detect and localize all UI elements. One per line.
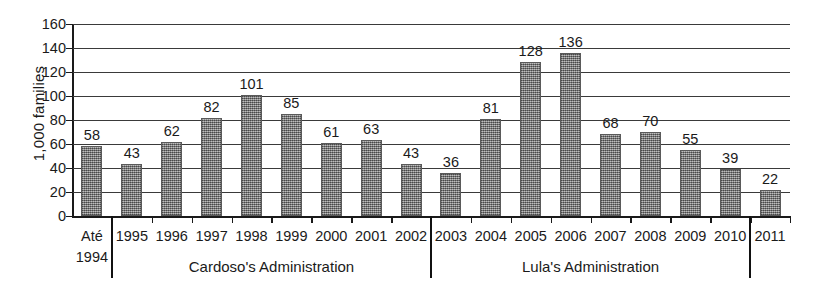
bar-2006[interactable]: [560, 53, 581, 216]
x-tick-15: [710, 216, 711, 223]
bar-2008[interactable]: [640, 132, 661, 216]
separator-after-2002: [430, 216, 433, 278]
x-label-2006: 2006: [554, 226, 586, 247]
bar-1996[interactable]: [161, 142, 182, 216]
y-tick-label-160: 160: [32, 16, 66, 32]
bar-value-label-1995: 43: [124, 145, 140, 161]
x-label-1995: 1995: [116, 226, 148, 247]
x-label-1996: 1996: [156, 226, 188, 247]
bar-1995[interactable]: [121, 164, 142, 216]
y-tick-label-100: 100: [32, 88, 66, 104]
bar-value-label-2005: 128: [519, 43, 543, 59]
y-axis-tick-labels: 020406080100120140160: [28, 0, 66, 283]
x-tick-1: [152, 216, 153, 223]
x-tick-9: [471, 216, 472, 223]
x-label-2010: 2010: [714, 226, 746, 247]
y-tick-0: [66, 216, 73, 217]
bar-value-label-2010: 39: [722, 150, 738, 166]
gridline-120: [72, 72, 790, 73]
x-label-1997: 1997: [195, 226, 227, 247]
bar-2003[interactable]: [440, 173, 461, 216]
x-label-2001: 2001: [355, 226, 387, 247]
bar-2010[interactable]: [720, 169, 741, 216]
x-tick-7: [391, 216, 392, 223]
x-tick-2: [192, 216, 193, 223]
x-tick-6: [351, 216, 352, 223]
bar-value-label-1996: 62: [164, 123, 180, 139]
x-tick-4: [271, 216, 272, 223]
bar-value-label-2011: 22: [762, 171, 778, 187]
y-tick-140: [66, 48, 73, 49]
bar-value-label-2009: 55: [682, 131, 698, 147]
bar-value-label-2002: 43: [403, 145, 419, 161]
x-label-2003: 2003: [435, 226, 467, 247]
y-tick-label-40: 40: [32, 160, 66, 176]
bar-value-label-1999: 85: [283, 95, 299, 111]
x-tick-11: [551, 216, 552, 223]
x-label-2004: 2004: [475, 226, 507, 247]
gridline-140: [72, 48, 790, 49]
y-tick-label-0: 0: [32, 208, 66, 224]
bar-value-label-até-1994: 58: [84, 127, 100, 143]
x-tick-5: [311, 216, 312, 223]
y-tick-label-140: 140: [32, 40, 66, 56]
y-tick-label-60: 60: [32, 136, 66, 152]
x-label-2011: 2011: [754, 226, 785, 247]
gridline-100: [72, 96, 790, 97]
bar-value-label-2008: 70: [642, 113, 658, 129]
admin-caption-cardoso: Cardoso's Administration: [189, 258, 354, 275]
y-tick-60: [66, 144, 73, 145]
x-label-2000: 2000: [315, 226, 347, 247]
bar-2001[interactable]: [361, 140, 382, 216]
bar-value-label-1998: 101: [239, 76, 263, 92]
y-tick-100: [66, 96, 73, 97]
bar-chart-figure: 1,000 families 020406080100120140160 584…: [0, 0, 821, 283]
y-tick-160: [66, 24, 73, 25]
x-tick-3: [232, 216, 233, 223]
x-label-2008: 2008: [634, 226, 666, 247]
x-label-1998: 1998: [235, 226, 267, 247]
bar-1998[interactable]: [241, 95, 262, 216]
x-tick-14: [670, 216, 671, 223]
bar-value-label-2001: 63: [363, 121, 379, 137]
bar-value-label-1997: 82: [204, 99, 220, 115]
admin-caption-lula: Lula's Administration: [522, 258, 659, 275]
x-label-2009: 2009: [674, 226, 706, 247]
y-tick-label-20: 20: [32, 184, 66, 200]
y-tick-40: [66, 168, 73, 169]
bar-value-label-2004: 81: [483, 100, 499, 116]
y-tick-120: [66, 72, 73, 73]
y-tick-20: [66, 192, 73, 193]
bar-2007[interactable]: [600, 134, 621, 216]
x-tick-10: [511, 216, 512, 223]
separator-after-2010: [749, 216, 752, 278]
x-label-até-1994: Até1994: [76, 226, 108, 268]
bar-1997[interactable]: [201, 118, 222, 216]
bar-value-label-2000: 61: [323, 124, 339, 140]
bar-2005[interactable]: [520, 62, 541, 216]
bar-2004[interactable]: [480, 119, 501, 216]
x-tick-13: [630, 216, 631, 223]
y-tick-label-120: 120: [32, 64, 66, 80]
y-tick-label-80: 80: [32, 112, 66, 128]
bar-value-label-2003: 36: [443, 154, 459, 170]
x-tick-12: [591, 216, 592, 223]
bar-value-label-2006: 136: [559, 34, 583, 50]
gridline-80: [72, 120, 790, 121]
x-tick-17: [790, 216, 791, 223]
y-tick-80: [66, 120, 73, 121]
gridline-160: [72, 24, 790, 25]
separator-after-até-1994: [111, 216, 114, 278]
plot-area: 584362821018561634336811281366870553922: [72, 24, 790, 216]
bar-value-label-2007: 68: [602, 115, 618, 131]
bar-2002[interactable]: [401, 164, 422, 216]
bar-2000[interactable]: [321, 143, 342, 216]
x-label-2002: 2002: [395, 226, 427, 247]
x-label-2005: 2005: [515, 226, 547, 247]
bar-2009[interactable]: [680, 150, 701, 216]
bar-2011[interactable]: [760, 190, 781, 216]
x-label-2007: 2007: [594, 226, 626, 247]
x-label-line2: 1994: [76, 247, 108, 268]
bar-até-1994[interactable]: [81, 146, 102, 216]
bar-1999[interactable]: [281, 114, 302, 216]
